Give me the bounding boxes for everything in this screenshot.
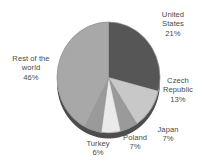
pie-label-poland: Poland 7% [117, 133, 153, 152]
pie-label-turkey: Turkey 6% [79, 139, 117, 158]
pie-label-czech-republic: Czech Republic 13% [154, 76, 202, 104]
pie-chart-figure: United States 21% Czech Republic 13% Jap… [0, 0, 209, 168]
pie-label-united-states: United States 21% [152, 10, 194, 38]
pie-label-rest-of-world: Rest of the world 46% [3, 54, 59, 82]
pie-label-japan: Japan 7% [150, 125, 186, 144]
